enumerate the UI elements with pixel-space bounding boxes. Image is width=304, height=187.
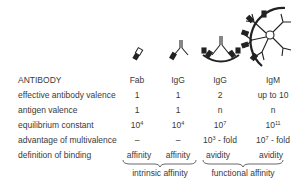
table-cell: n xyxy=(271,105,276,115)
igm-pentamer-bound-icon xyxy=(241,8,291,66)
table-cell: 107 xyxy=(214,120,227,130)
row-label-antigen-valence: antigen valence xyxy=(18,105,78,115)
intrinsic-affinity-brace xyxy=(123,160,196,167)
table-cell: 1 xyxy=(176,90,181,100)
row-label-equilibrium-constant: equilibrium constant xyxy=(18,120,94,130)
table-cell: 2 xyxy=(218,90,223,100)
row-label-antibody: ANTIBODY xyxy=(18,75,61,85)
row-label-definition-binding: definition of binding xyxy=(18,150,91,160)
table-cell: 1 xyxy=(176,105,181,115)
column-header-igm: IgM xyxy=(266,75,280,85)
table-cell: 104 xyxy=(131,120,144,130)
row-label-effective-valence: effective antibody valence xyxy=(18,90,116,100)
table-cell: 103 - fold xyxy=(203,135,237,145)
table-cell: – xyxy=(176,135,181,145)
column-header-fab: Fab xyxy=(130,75,145,85)
igg-bivalent-bound-icon xyxy=(202,36,240,62)
table-cell: 1011 xyxy=(265,120,280,130)
table-cell: – xyxy=(135,135,140,145)
column-header-igg-1: IgG xyxy=(171,75,185,85)
table-cell: avidity xyxy=(259,150,283,160)
group-label-intrinsic-affinity: intrinsic affinity xyxy=(132,168,188,178)
table-cell: 104 xyxy=(172,120,185,130)
table-cell: 1 xyxy=(135,105,140,115)
table-cell: up to 10 xyxy=(258,90,289,100)
table-cell: affinity xyxy=(127,150,151,160)
igg-monovalent-icon xyxy=(170,40,188,60)
row-label-advantage-multivalence: advantage of multivalence xyxy=(18,135,117,145)
table-cell: 107 - fold xyxy=(256,135,290,145)
table-cell: avidity xyxy=(206,150,230,160)
fab-fragment-icon xyxy=(132,48,142,61)
column-header-igg-2: IgG xyxy=(213,75,227,85)
functional-affinity-brace xyxy=(203,160,283,167)
table-cell: affinity xyxy=(166,150,190,160)
table-cell: 1 xyxy=(135,90,140,100)
group-label-functional-affinity: functional affinity xyxy=(211,168,274,178)
table-cell: n xyxy=(218,105,223,115)
